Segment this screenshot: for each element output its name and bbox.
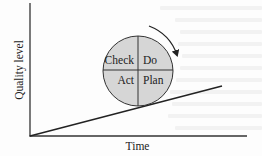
y-axis-label: Quality level [13,40,26,100]
pdca-cycle-wheel: Check Do Act Plan [103,36,173,106]
quadrant-do-label: Do [143,54,157,66]
quadrant-act-label: Act [117,74,134,86]
quadrant-plan-label: Plan [143,74,164,86]
diagram-canvas: Check Do Act Plan Quality level Time [0,0,262,156]
pdca-diagram: Check Do Act Plan Quality level Time [0,0,262,156]
quadrant-check-label: Check [105,54,135,66]
x-axis-label: Time [126,140,150,152]
